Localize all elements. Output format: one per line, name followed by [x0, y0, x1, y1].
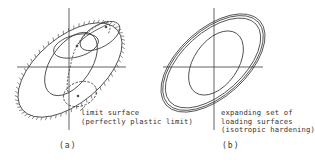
hatch-tick: [86, 99, 87, 102]
hatch-tick: [121, 51, 124, 53]
hatch-tick: [32, 116, 34, 119]
panel-b-label: expanding set of loading surfaces (isotr…: [221, 109, 315, 135]
hatch-tick: [117, 29, 120, 30]
path-point: [76, 45, 78, 47]
hatch-tick: [114, 69, 116, 72]
panel-a-label: limit surface (perfectly plastic limit): [81, 109, 193, 126]
hatch-tick: [119, 60, 121, 63]
path-point: [105, 26, 107, 28]
hatch-tick: [48, 41, 49, 44]
loading-surface-outer-3: [149, 2, 276, 125]
hatch-tick: [15, 91, 18, 93]
panel-a-label-line2: (perfectly plastic limit): [81, 118, 193, 127]
hatch-tick: [21, 73, 23, 76]
hatch-tick: [115, 27, 118, 28]
small-ellipse-top-right: [75, 15, 124, 56]
hatch-tick: [112, 24, 115, 26]
hatch-tick: [108, 78, 109, 81]
hatch-tick: [17, 82, 19, 85]
panel-b-label-line3: (isotropic hardening): [221, 126, 315, 135]
hatch-tick: [104, 83, 105, 86]
hatch-tick: [39, 50, 40, 53]
hatch-tick: [31, 59, 32, 62]
loading-path: [67, 22, 110, 92]
hatch-tick: [43, 45, 44, 48]
hatch-tick: [22, 112, 25, 113]
path-point: [77, 95, 79, 97]
panel-b-caption: (b): [222, 141, 239, 150]
hatch-tick: [27, 63, 29, 66]
hatch-tick: [120, 55, 122, 58]
diagram-canvas: [0, 0, 315, 163]
hatch-tick: [109, 22, 112, 24]
hatch-tick: [111, 74, 113, 77]
hatch-tick: [122, 47, 125, 49]
hatch-tick: [91, 95, 92, 98]
hatch-tick: [100, 87, 101, 90]
hatch-tick: [24, 68, 26, 71]
hatch-tick: [19, 110, 22, 111]
panel-a-caption: (a): [59, 141, 76, 150]
hatch-tick: [35, 54, 36, 57]
hatch-tick: [16, 87, 19, 89]
hatch-tick: [25, 114, 28, 116]
hatch-tick: [53, 37, 54, 40]
hatch-tick: [28, 115, 31, 117]
hatch-tick: [19, 78, 21, 81]
loading-surface-inner: [177, 21, 254, 105]
